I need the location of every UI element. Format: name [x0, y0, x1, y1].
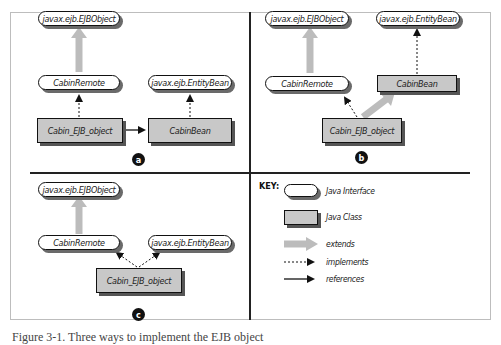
figure-caption: Figure 3-1. Three ways to implement the …: [12, 330, 263, 345]
panel-b-entitybean-interface: javax.ejb.EntityBean: [376, 11, 460, 26]
panel-a-ejbobject-interface: javax.ejb.EJBObject: [38, 11, 120, 26]
panel-b-cabinbean-class: CabinBean: [377, 75, 457, 92]
panel-b-ejbobject-interface: javax.ejb.EJBObject: [265, 11, 349, 26]
key-references-label: references: [326, 274, 364, 284]
panel-b-ejb-object-class: Cabin_EJB_object: [322, 118, 402, 143]
panel-c-arrows: [71, 196, 159, 267]
key-arrows: [284, 237, 318, 279]
panel-c-cabinremote-interface: CabinRemote: [38, 235, 120, 250]
panel-c-entitybean-interface: javax.ejb.EntityBean: [148, 235, 232, 250]
key-class-swatch: [284, 210, 318, 225]
panel-b-badge: b: [355, 151, 368, 164]
key-title: KEY:: [259, 181, 279, 191]
panel-c-ejb-object-class: Cabin_EJB_object: [96, 268, 182, 293]
panel-c-badge: c: [132, 308, 145, 321]
panel-b-cabinremote-interface: CabinRemote: [265, 76, 349, 91]
panel-a-ejb-object-class: Cabin_EJB_object: [37, 118, 123, 143]
panel-a-entitybean-interface: javax.ejb.EntityBean: [148, 75, 232, 90]
key-interface-label: Java Interface: [326, 186, 375, 196]
panel-a-cabinbean-class: CabinBean: [148, 118, 232, 143]
key-class-label: Java Class: [326, 212, 362, 222]
key-extends-label: extends: [326, 239, 355, 249]
panel-b-arrows: [302, 27, 417, 117]
key-interface-swatch: [284, 184, 318, 197]
panel-a-badge: a: [132, 153, 145, 166]
panel-c-ejbobject-interface: javax.ejb.EJBObject: [38, 182, 120, 197]
key-implements-label: implements: [326, 257, 368, 267]
panel-a-cabinremote-interface: CabinRemote: [38, 75, 120, 90]
